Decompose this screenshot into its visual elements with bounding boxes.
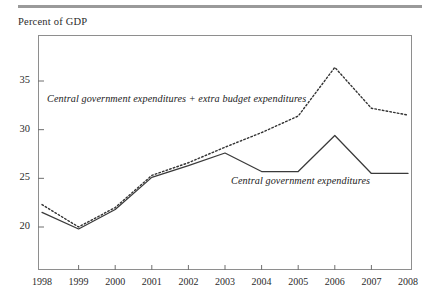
x-axis-tick-label: 2004 xyxy=(242,276,282,287)
x-axis-tick-label: 2003 xyxy=(205,276,245,287)
x-axis-tick-label: 2002 xyxy=(168,276,208,287)
series-line-total xyxy=(42,67,408,227)
figure-container: Percent of GDP 20253035 1998199920002001… xyxy=(0,0,437,304)
x-axis-tick-marks xyxy=(79,265,372,270)
y-axis-tick-label: 25 xyxy=(8,171,30,182)
y-axis-tick-label: 35 xyxy=(8,74,30,85)
x-axis-tick-label: 1998 xyxy=(22,276,62,287)
x-axis-tick-label: 2008 xyxy=(388,276,428,287)
x-axis-tick-label: 1999 xyxy=(59,276,99,287)
x-axis-tick-label: 2007 xyxy=(351,276,391,287)
x-axis-tick-label: 2001 xyxy=(132,276,172,287)
x-axis-tick-label: 2005 xyxy=(278,276,318,287)
y-axis-tick-label: 20 xyxy=(8,220,30,231)
x-axis-tick-label: 2006 xyxy=(315,276,355,287)
series-label-total: Central government expenditures + extra … xyxy=(47,93,306,104)
x-axis-tick-label: 2000 xyxy=(95,276,135,287)
y-axis-tick-label: 30 xyxy=(8,123,30,134)
series-label-central: Central government expenditures xyxy=(231,175,370,186)
chart-plot-area xyxy=(0,0,437,304)
